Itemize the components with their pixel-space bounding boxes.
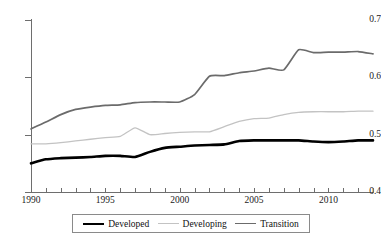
series-line-transition	[31, 50, 373, 129]
chart-legend: DevelopedDevelopingTransition	[72, 214, 310, 233]
line-swatch-gray-icon	[235, 223, 256, 224]
series-line-developing	[31, 111, 373, 144]
legend-entry-transition[interactable]: Transition	[235, 219, 299, 229]
legend-label: Transition	[260, 219, 299, 229]
legend-entry-developed[interactable]: Developed	[83, 219, 149, 229]
legend-label: Developed	[108, 219, 149, 229]
line-chart-figure: 0.40.50.60.7 19901995200020052010 Develo…	[0, 0, 381, 244]
series-plot-group	[0, 0, 381, 244]
legend-entry-developing[interactable]: Developing	[158, 219, 227, 229]
line-swatch-lightgray-icon	[158, 223, 179, 224]
legend-label: Developing	[183, 219, 227, 229]
series-line-developed	[31, 140, 373, 163]
line-swatch-black-icon	[83, 223, 104, 225]
